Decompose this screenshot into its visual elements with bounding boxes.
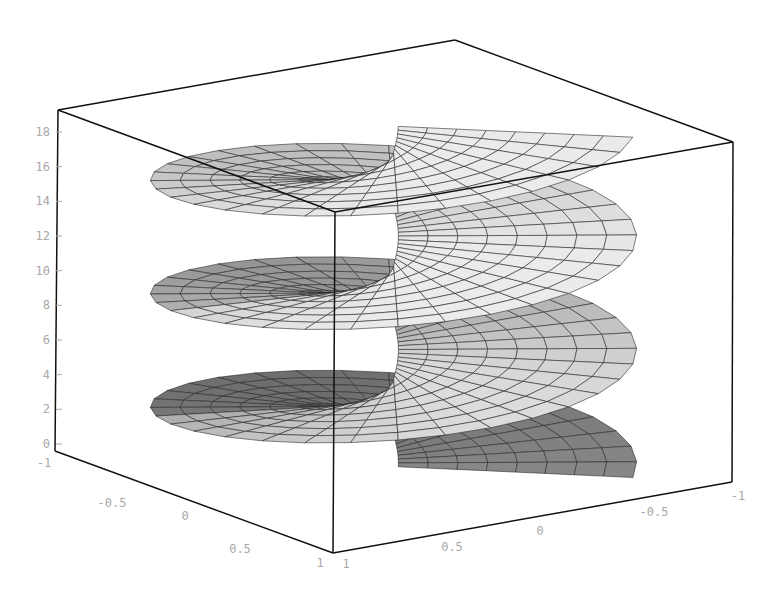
- y-tick-label: 1: [316, 556, 323, 570]
- z-tick-label: 8: [43, 298, 50, 312]
- x-tick-label: 0.5: [441, 540, 463, 554]
- z-tick-label: 10: [36, 264, 50, 278]
- z-tick-label: 12: [36, 229, 50, 243]
- helicoid-3d-plot: 024681012141618 -1-0.500.51 10.50-0.5-1: [0, 0, 767, 593]
- z-tick-label: 2: [43, 402, 50, 416]
- z-tick-label: 4: [43, 368, 50, 382]
- z-tick-label: 6: [43, 333, 50, 347]
- z-tick-label: 18: [36, 125, 50, 139]
- z-tick-label: 14: [36, 194, 50, 208]
- x-axis-ticks: 10.50-0.5-1: [342, 489, 745, 571]
- y-tick-label: 0: [181, 509, 188, 523]
- helicoid-surface: [150, 126, 636, 477]
- x-tick-label: -1: [731, 489, 745, 503]
- z-tick-label: 16: [36, 160, 50, 174]
- y-tick-label: 0.5: [229, 542, 251, 556]
- y-axis-ticks: -1-0.500.51: [37, 456, 324, 570]
- x-tick-label: 1: [342, 557, 349, 571]
- y-tick-label: -0.5: [98, 496, 127, 510]
- x-tick-label: 0: [536, 524, 543, 538]
- y-tick-label: -1: [37, 456, 51, 470]
- x-tick-label: -0.5: [640, 505, 669, 519]
- z-tick-label: 0: [43, 437, 50, 451]
